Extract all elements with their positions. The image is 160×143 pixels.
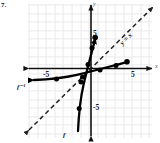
tick-label-y-minus-5: -5 <box>93 104 99 112</box>
y-axis-label: y <box>93 1 96 7</box>
curve-f <box>77 35 98 131</box>
x-axis-label: x <box>155 63 158 69</box>
tick-label-x-minus-5: -5 <box>43 71 49 79</box>
figure-container: 7. <box>0 0 160 143</box>
coordinate-plot <box>0 0 160 143</box>
curve-label-f: f <box>63 132 65 139</box>
tick-label-y-5: 5 <box>93 30 97 38</box>
curve-label-f-inverse: f⁻¹ <box>17 84 25 91</box>
tick-label-x-5: 5 <box>131 71 135 79</box>
